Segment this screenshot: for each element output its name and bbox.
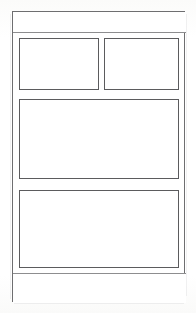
content-box-top-right-label (105, 39, 178, 47)
footer-text (13, 274, 186, 279)
footer-bar (13, 273, 186, 303)
header-title (13, 12, 186, 17)
content-box-secondary-label (20, 191, 178, 199)
content-box-top-left[interactable] (19, 38, 99, 90)
content-box-main[interactable] (19, 99, 179, 179)
content-box-top-left-label (20, 39, 98, 47)
content-box-top-right[interactable] (104, 38, 179, 90)
content-box-main-label (20, 100, 178, 108)
content-box-secondary[interactable] (19, 190, 179, 268)
page-outline-frame (12, 11, 185, 302)
header-bar (13, 12, 186, 33)
